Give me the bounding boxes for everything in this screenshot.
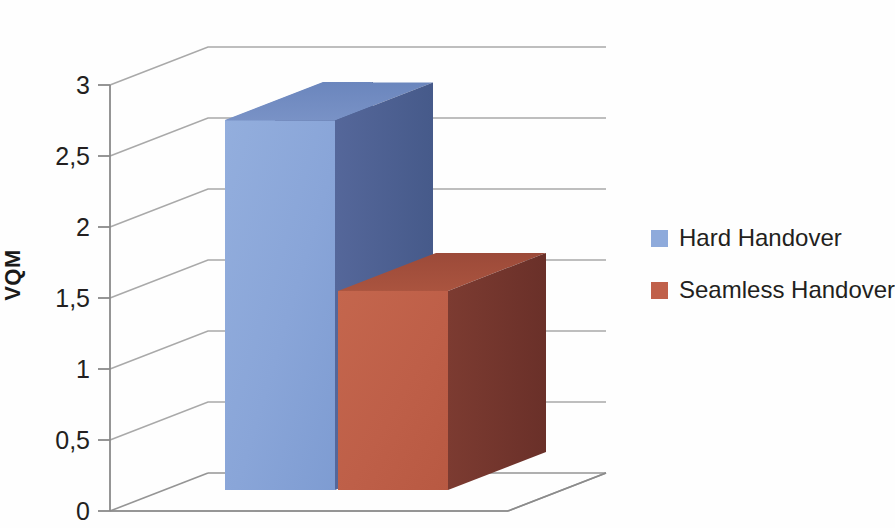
legend-label: Seamless Handover xyxy=(679,278,895,302)
y-tick-label: 1 xyxy=(76,357,90,382)
y-axis xyxy=(98,85,110,511)
y-tick-label: 2 xyxy=(76,215,90,240)
y-axis-tick-labels: 3 2,5 2 1,5 1 0,5 0 xyxy=(28,0,90,528)
y-tick-label: 0 xyxy=(76,499,90,524)
bar-hard-handover-front-face-main xyxy=(225,121,335,491)
legend-item-seamless-handover[interactable]: Seamless Handover xyxy=(651,264,895,316)
chart-container: 3 2,5 2 1,5 1 0,5 0 VQM Hard Handover Se… xyxy=(0,0,895,528)
legend-swatch-icon xyxy=(651,282,668,299)
bar-seamless-handover-side-face xyxy=(448,253,546,490)
legend-item-hard-handover[interactable]: Hard Handover xyxy=(651,212,895,264)
legend-label: Hard Handover xyxy=(679,226,842,250)
bar-seamless-handover[interactable] xyxy=(338,253,546,490)
bar-seamless-handover-front-face xyxy=(338,291,448,490)
legend-swatch-icon xyxy=(651,230,668,247)
y-tick-label: 3 xyxy=(76,73,90,98)
y-tick-label: 0,5 xyxy=(55,428,90,453)
y-axis-title: VQM xyxy=(0,240,26,310)
y-tick-label: 2,5 xyxy=(55,144,90,169)
legend: Hard Handover Seamless Handover xyxy=(651,212,895,316)
y-tick-label: 1,5 xyxy=(55,286,90,311)
